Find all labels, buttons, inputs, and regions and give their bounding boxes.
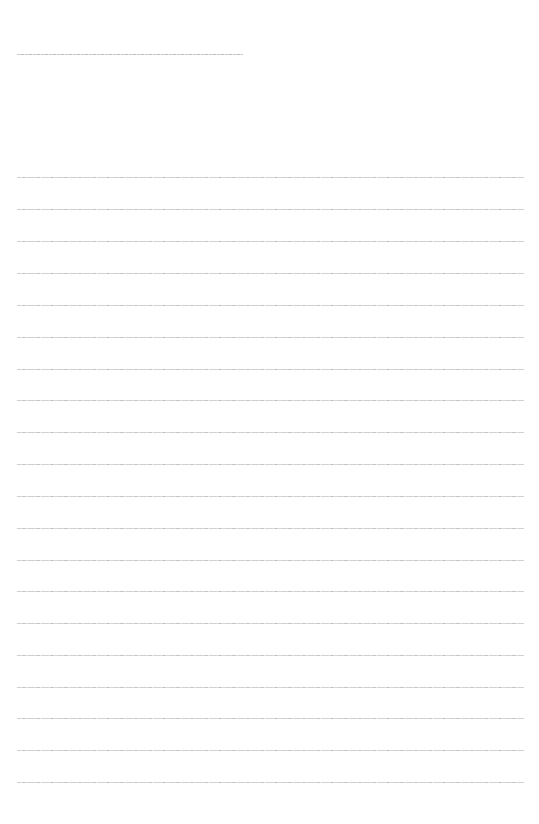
text-line-ink <box>17 782 524 783</box>
text-line-ink <box>17 400 524 401</box>
text-line: [illegible text line 6] <box>17 337 524 340</box>
text-line: [illegible text line 16] <box>17 655 524 658</box>
text-line-ink <box>17 687 524 688</box>
text-line: [illegible text line 11] <box>17 496 524 499</box>
text-line: [illegible text line 4] <box>17 273 524 276</box>
text-line: [illegible text line 5] <box>17 305 524 308</box>
text-line: [illegible text line 12] <box>17 528 524 531</box>
text-line: [illegible text line 20] <box>17 782 524 785</box>
header-text-ink <box>17 54 243 55</box>
text-line-ink <box>17 273 524 274</box>
text-line-ink <box>17 623 524 624</box>
text-line-ink <box>17 591 524 592</box>
text-line-ink <box>17 369 524 370</box>
text-line-ink <box>17 177 524 178</box>
text-line-ink <box>17 718 524 719</box>
text-line: [illegible text line 1] <box>17 177 524 180</box>
text-line-ink <box>17 496 524 497</box>
text-line: [illegible text line 7] <box>17 369 524 372</box>
text-line: [illegible text line 14] <box>17 591 524 594</box>
text-line-ink <box>17 750 524 751</box>
text-line-ink <box>17 528 524 529</box>
text-line: [illegible text line 17] <box>17 687 524 690</box>
text-line: [illegible text line 13] <box>17 560 524 563</box>
text-line-ink <box>17 337 524 338</box>
text-line: [illegible text line 15] <box>17 623 524 626</box>
text-line: [illegible text line 8] <box>17 400 524 403</box>
text-line: [illegible text line 10] <box>17 464 524 467</box>
text-line-ink <box>17 560 524 561</box>
text-line: [illegible text line 9] <box>17 432 524 435</box>
text-line-ink <box>17 305 524 306</box>
text-line-ink <box>17 655 524 656</box>
text-line: [illegible text line 2] <box>17 209 524 212</box>
text-line: [illegible text line 19] <box>17 750 524 753</box>
document-header: [illegible header text] <box>17 54 243 57</box>
text-line-ink <box>17 432 524 433</box>
text-line: [illegible text line 18] <box>17 718 524 721</box>
text-line: [illegible text line 3] <box>17 241 524 244</box>
text-line-ink <box>17 464 524 465</box>
text-line-ink <box>17 241 524 242</box>
text-line-ink <box>17 209 524 210</box>
